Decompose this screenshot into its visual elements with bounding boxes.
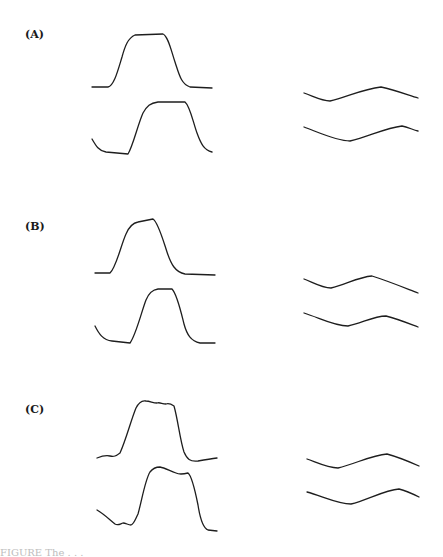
panel-a-right-top-trace — [304, 87, 418, 101]
panel-b-right-bottom-trace — [304, 313, 418, 327]
panel-c-right-bottom-trace — [307, 489, 419, 504]
figure-caption-cropped: FIGURE The . . . — [0, 547, 443, 557]
panel-a-left-bottom-trace — [92, 102, 212, 154]
panel-c-left-bottom-trace — [97, 467, 217, 531]
panel-a-left-top-trace — [92, 34, 212, 88]
panel-c-right-top-trace — [307, 454, 419, 468]
panel-c-left-top-trace — [97, 401, 217, 461]
panel-b-right-top-trace — [304, 276, 418, 293]
panel-a-right-bottom-trace — [304, 126, 418, 141]
panel-b-left-bottom-trace — [95, 289, 215, 343]
panel-b-left-top-trace — [95, 219, 215, 275]
